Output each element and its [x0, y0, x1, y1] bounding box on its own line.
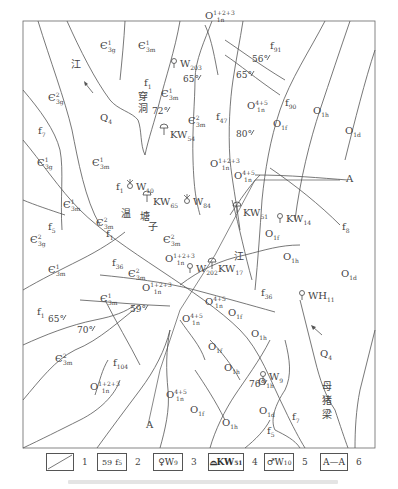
fault-label: f8	[342, 221, 350, 234]
unit-label: O1h	[224, 362, 240, 375]
unit-label: Є13m	[63, 198, 81, 212]
legend-number: 1	[82, 457, 88, 467]
fault-label: f5	[48, 221, 56, 234]
legend-item-5: ♂ W10 5	[264, 453, 308, 471]
section-end-label: A	[345, 173, 354, 184]
fault-dip-symbol: 59 f5	[97, 453, 127, 471]
well-spring: WH11	[300, 290, 335, 303]
legend-fault-sub: 5	[118, 459, 122, 466]
unit-label: Є13m	[100, 292, 118, 306]
well-label: W203	[180, 58, 202, 71]
legend-number: 5	[302, 457, 308, 467]
fault-labels: f91f90f1f47f7f1f5f1f36f8f36f1f104f7f5	[37, 40, 350, 438]
unit-label: O4+51n	[166, 388, 187, 402]
unit-label: Є23m	[128, 267, 146, 281]
well-ascend: W10	[127, 179, 154, 194]
unit-label: O1f	[208, 341, 223, 354]
unit-label: O1f	[228, 307, 243, 320]
legend-well-sub: 9	[174, 459, 178, 466]
dip-angle-label: 65°	[236, 70, 252, 80]
well-label: W84	[193, 196, 211, 209]
ascending-spring-icon: ♂	[267, 457, 275, 467]
place-name-char: 温	[121, 208, 131, 219]
legend-well-label: KW	[217, 457, 235, 467]
legend-number: 4	[252, 457, 258, 467]
unit-label: O1f	[273, 118, 288, 131]
spring-icon	[188, 264, 193, 269]
spring-icon	[300, 291, 305, 296]
unit-label: Є13m	[138, 39, 156, 53]
well-cave: KW54	[160, 124, 195, 142]
well-label: KW17	[218, 263, 243, 276]
unit-label: Є23m	[163, 233, 181, 247]
legend-well-label: W	[165, 457, 174, 467]
unit-label: O1+2+31n	[90, 380, 120, 394]
legend-section-label: A—A	[323, 457, 345, 467]
unit-label: O4+51n	[205, 295, 226, 309]
unit-label: Є13g	[37, 156, 53, 171]
fault-label: f7	[38, 125, 46, 138]
well-label: KW54	[170, 129, 195, 142]
dip-angle-label: 65°	[183, 74, 199, 84]
unit-label: Є23m	[96, 216, 114, 230]
cave-spring-symbol: ⌓ KW51	[208, 453, 244, 471]
legend: 1 59 f5 2 ♀ W9 3 ⌓ KW51 4 ♂ W10 5 A—A 6	[0, 453, 398, 475]
legend-item-3: ♀ W9 3	[153, 453, 197, 471]
legend-number: 6	[356, 457, 362, 467]
unit-label: O1d	[341, 268, 357, 281]
unit-label: Є23m	[188, 114, 206, 128]
unit-label: Є13m	[48, 263, 66, 277]
unit-label: Є13m	[161, 87, 179, 101]
quaternary-label: Q4	[320, 348, 332, 361]
well-spring: W203	[172, 58, 202, 71]
unit-label: O1h	[222, 417, 238, 430]
fault-label: f7	[292, 411, 300, 424]
unit-label: Є23m	[55, 352, 73, 366]
unit-label: O1h	[283, 251, 299, 264]
well-label: KW65	[153, 196, 178, 209]
fault-label: f91	[270, 40, 281, 53]
geological-map: Є13gЄ13mЄ23gЄ13mЄ23mЄ13gЄ13mЄ13mЄ23mЄ23g…	[0, 0, 398, 489]
figure-caption	[68, 480, 338, 484]
legend-well-label: W	[275, 457, 284, 467]
unit-label: O1h	[313, 105, 329, 118]
legend-item-4: ⌓ KW51 4	[208, 453, 258, 471]
place-name-char: 洞	[138, 103, 148, 114]
place-name-char: 穿	[138, 90, 148, 102]
place-name-char: 江	[71, 59, 81, 70]
dip-angle-label: 70°	[77, 325, 93, 335]
fault-label: f104	[113, 357, 128, 370]
dip-angle-label: 56°	[252, 54, 268, 64]
unit-label: O4+51n	[234, 169, 255, 183]
section-end-label: A	[145, 419, 154, 430]
quaternary-labels: Q4Q4	[100, 112, 332, 361]
legend-number: 3	[191, 457, 197, 467]
dip-angle-label: 65°	[48, 314, 64, 324]
dip-angle-label: 72°	[152, 106, 168, 116]
legend-number: 2	[135, 457, 141, 467]
fault-label: f36	[261, 287, 273, 300]
fault-label: f1	[144, 77, 152, 90]
fault-label: f90	[285, 97, 297, 110]
ascending-spring-icon	[185, 199, 190, 204]
legend-item-1: 1	[46, 453, 88, 471]
well-label: W10	[136, 181, 154, 194]
fault-label: f1	[37, 306, 45, 319]
cave-icon	[160, 124, 168, 128]
unit-label: O1+2+31n	[142, 281, 172, 295]
unit-label: O1f	[265, 228, 280, 241]
place-name-char: 母	[322, 381, 332, 392]
spring-icon	[278, 214, 283, 219]
boundary-line-symbol	[46, 453, 74, 471]
place-name-char: 江	[234, 251, 244, 262]
legend-dip-value: 59	[102, 458, 112, 467]
well-ascend: W84	[184, 194, 211, 209]
unit-label: O1f	[190, 404, 205, 417]
unit-label: O1d	[345, 125, 361, 138]
spring-symbol: ♀ W9	[153, 453, 183, 471]
well-label: KW51	[243, 207, 268, 220]
quaternary-label: Q4	[100, 112, 112, 125]
unit-label: Є13m	[92, 156, 110, 170]
legend-well-sub: 10	[284, 459, 292, 466]
unit-label: O1+2+31n	[210, 157, 240, 171]
